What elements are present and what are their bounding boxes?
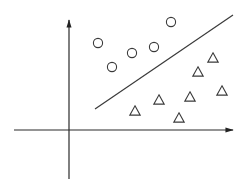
triangle-marker-icon	[185, 92, 195, 101]
triangle-marker-icon	[217, 86, 227, 95]
circle-marker-icon	[149, 42, 158, 51]
triangle-marker-icon	[130, 106, 140, 115]
triangle-marker-icon	[193, 67, 203, 76]
triangle-marker-icon	[174, 113, 184, 122]
circle-marker-icon	[127, 48, 136, 57]
triangle-marker-icon	[208, 53, 218, 62]
circle-marker-icon	[93, 38, 102, 47]
diagram-svg	[0, 0, 246, 189]
circle-marker-icon	[107, 62, 116, 71]
triangle-marker-icon	[154, 95, 164, 104]
scatter-diagram	[0, 0, 246, 189]
circle-marker-icon	[166, 17, 175, 26]
